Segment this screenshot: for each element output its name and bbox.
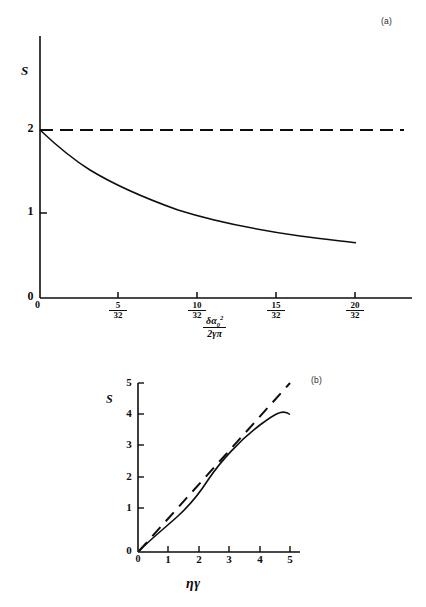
panel-a-y-tick-label-2: 2	[24, 121, 37, 136]
panel-a-x-tick-20-32-denominator: 32	[346, 310, 364, 320]
panel-a-x-tick-label-20-32: 20 32	[342, 301, 368, 320]
panel-a-label: (a)	[381, 16, 392, 26]
panel-b-dashed-linear-curve	[139, 383, 290, 551]
panel-a-x-tick-15-32-denominator: 32	[267, 310, 285, 320]
panel-b-y-tick-label-4: 4	[123, 407, 135, 419]
panel-b-x-tick-label-5: 5	[284, 553, 296, 565]
panel-b-y-tick-label-5: 5	[123, 376, 135, 388]
panel-b-solid-exact-curve	[139, 412, 290, 551]
figure-container: (a) S 2 1 0 0 5 32 10 32 15 32 20 32 δα0…	[0, 0, 426, 607]
panel-a-x-tick-label-15-32: 15 32	[263, 301, 289, 320]
panel-a-x-tick-label-5-32: 5 32	[105, 301, 131, 320]
panel-b-y-tick-label-2: 2	[123, 470, 135, 482]
panel-a-origin-label-below: 0	[31, 299, 44, 310]
panel-a-y-tick-label-1: 1	[24, 204, 37, 219]
panel-b-x-tick-label-2: 2	[193, 553, 205, 565]
panel-b-x-tick-label-1: 1	[162, 553, 174, 565]
panel-a-x-axis-label-denominator: 2γπ	[203, 327, 226, 339]
panel-a-y-axis-name: S	[21, 63, 28, 79]
panel-a-x-axis-label-alpha-subscript: 0	[217, 321, 220, 328]
panel-a-x-axis-label: δα02 2γπ	[203, 316, 226, 339]
panel-a-x-tick-20-32-numerator: 20	[342, 301, 368, 310]
panel-a-x-tick-15-32-numerator: 15	[263, 301, 289, 310]
panel-a-x-tick-5-32-denominator: 32	[109, 310, 127, 320]
panel-b-x-tick-label-3: 3	[223, 553, 235, 565]
panel-b-x-axis-label: ηγ	[186, 576, 201, 592]
panel-a-x-axis-label-numerator: δα02	[203, 316, 226, 327]
panel-b-y-tick-label-3: 3	[123, 438, 135, 450]
panel-b-axes	[138, 383, 300, 552]
panel-a-x-tick-10-32-numerator: 10	[184, 301, 210, 310]
panel-b-origin-label-below: 0	[132, 553, 144, 564]
panel-a-x-axis-label-alpha-superscript: 2	[220, 314, 223, 321]
panel-b-y-tick-label-1: 1	[123, 501, 135, 513]
panel-a-axes	[40, 36, 412, 298]
panel-a-solid-exact-curve	[40, 130, 356, 243]
panel-b-y-axis-name: S	[106, 392, 113, 407]
panel-b-label: (b)	[311, 375, 322, 385]
panel-a-x-tick-5-32-numerator: 5	[105, 301, 131, 310]
panel-b-x-tick-label-4: 4	[254, 553, 266, 565]
